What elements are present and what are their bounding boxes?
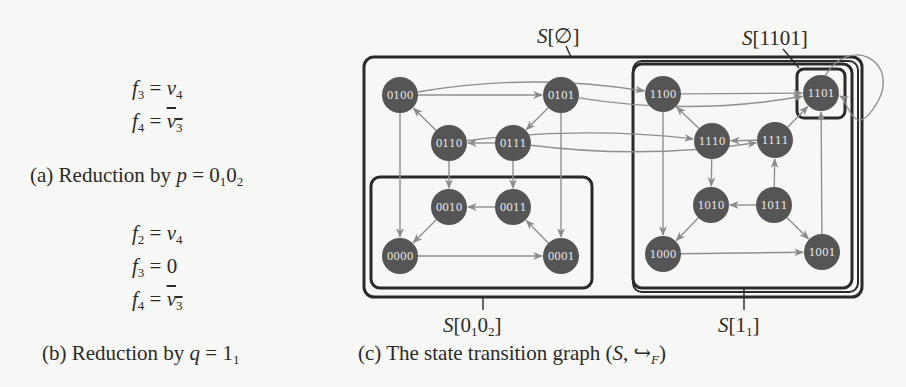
state-node-label: 1001 — [809, 246, 836, 258]
state-node-1111: 1111 — [757, 122, 793, 158]
state-node-label: 0100 — [387, 89, 414, 101]
state-node-0010: 0010 — [431, 189, 467, 225]
state-node-label: 0011 — [500, 201, 527, 213]
edge-0101-0111 — [526, 108, 548, 130]
state-node-0100: 0100 — [382, 77, 418, 113]
label-s-1-1: S[11] — [718, 313, 760, 339]
state-node-label: 0110 — [436, 137, 463, 149]
label-s-1101: S[1101] — [742, 26, 808, 50]
state-node-label: 1101 — [808, 87, 835, 99]
state-node-0111: 0111 — [495, 125, 531, 161]
state-node-0101: 0101 — [543, 77, 579, 113]
state-node-label: 1110 — [699, 135, 726, 147]
edge-0110-0100 — [414, 108, 437, 130]
state-node-label: 0001 — [548, 250, 575, 262]
state-node-label: 0010 — [436, 201, 463, 213]
state-node-1101: 1101 — [803, 75, 839, 111]
edge-0100-1100 — [418, 82, 645, 92]
state-node-0011: 0011 — [495, 189, 531, 225]
state-node-1001: 1001 — [804, 234, 840, 270]
edge-1001-1101 — [821, 112, 822, 234]
edge-0101-1101 — [579, 96, 803, 106]
edge-0001-0011 — [526, 221, 548, 244]
state-node-0110: 0110 — [431, 125, 467, 161]
state-node-label: 1000 — [650, 248, 677, 260]
nodes: 0100010101100111001000110000000111001101… — [382, 75, 840, 274]
state-node-label: 0000 — [387, 250, 414, 262]
panel-c-caption: (c) The state transition graph (S, ↪F) — [358, 341, 666, 368]
state-node-label: 1011 — [761, 199, 788, 211]
edge-1010-1000 — [676, 218, 698, 241]
state-node-label: 0111 — [500, 137, 527, 149]
state-transition-graph: 0100010101100111001000110000000111001101… — [0, 0, 906, 387]
edge-1100-1101 — [681, 93, 802, 94]
subset-boxes — [364, 46, 862, 310]
state-node-0000: 0000 — [382, 238, 418, 274]
state-node-label: 1111 — [762, 134, 789, 146]
state-node-1011: 1011 — [756, 187, 792, 223]
state-node-1100: 1100 — [645, 76, 681, 112]
label-s-01-02: S[0102] — [443, 313, 502, 339]
edge-1000-1001 — [681, 252, 803, 254]
state-node-label: 1010 — [698, 199, 725, 211]
edge-1011-1001 — [787, 218, 809, 239]
state-node-label: 1100 — [650, 88, 677, 100]
state-node-1010: 1010 — [693, 187, 729, 223]
state-node-1000: 1000 — [645, 236, 681, 272]
state-node-0001: 0001 — [543, 238, 579, 274]
state-node-1110: 1110 — [694, 123, 730, 159]
edge-0010-0000 — [413, 220, 436, 243]
state-node-label: 0101 — [548, 89, 575, 101]
label-s-empty: S[∅] — [537, 24, 580, 48]
edge-1110-1100 — [677, 107, 699, 128]
